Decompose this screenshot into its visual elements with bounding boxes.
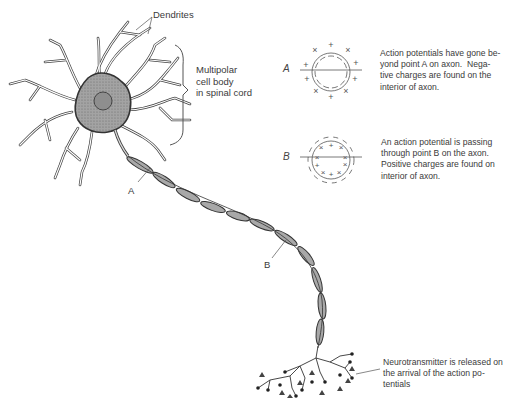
svg-text:+: + — [328, 40, 333, 50]
svg-text:×: × — [343, 160, 348, 169]
cell-body-bracket — [170, 45, 188, 145]
inset-b-caption: An action potential is passing through p… — [381, 137, 495, 182]
svg-text:×: × — [321, 168, 326, 177]
axon-terminals — [258, 346, 352, 396]
svg-text:+: + — [303, 60, 308, 70]
axon-hillock — [115, 130, 128, 156]
inset-b-charges: +×× ×× +× ×+× — [315, 141, 348, 179]
svg-text:+: + — [329, 141, 334, 150]
dendrites-label: Dendrites — [153, 9, 194, 21]
neurotransmitter-vesicles — [259, 366, 355, 398]
inset-b-label: B — [283, 151, 290, 162]
svg-text:+: + — [353, 58, 358, 68]
nucleus — [94, 92, 112, 110]
leader-lines — [136, 17, 380, 374]
svg-text:+: + — [315, 161, 320, 170]
neurotransmitter-caption: Neurotransmitter is released on the arri… — [383, 357, 503, 391]
myelinated-axon — [125, 154, 327, 345]
inset-a-caption: Action potentials have gone be- yond poi… — [380, 48, 500, 93]
point-a-label: A — [128, 185, 134, 197]
svg-text:×: × — [337, 168, 342, 177]
svg-text:×: × — [339, 143, 344, 152]
svg-text:+: + — [352, 74, 357, 84]
svg-text:+: + — [328, 92, 333, 102]
svg-text:×: × — [313, 86, 318, 96]
point-b-label: B — [264, 259, 270, 271]
svg-text:×: × — [343, 86, 348, 96]
svg-text:×: × — [319, 143, 324, 152]
svg-text:+: + — [304, 74, 309, 84]
svg-text:×: × — [345, 45, 350, 55]
inset-a-label: A — [283, 63, 290, 74]
cell-body-label: Multipolar cell body in spinal cord — [196, 64, 252, 99]
svg-text:×: × — [312, 45, 317, 55]
svg-text:+: + — [329, 170, 334, 179]
